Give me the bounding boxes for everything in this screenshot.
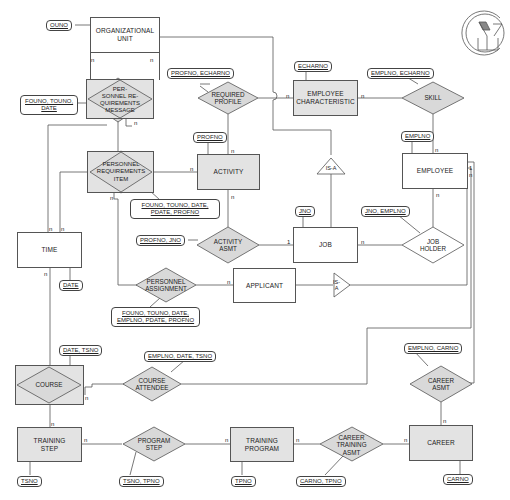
cardinality-label: n (110, 195, 113, 201)
attribute-tsno-tpno[interactable]: TSNO, TPNO (119, 476, 164, 487)
cardinality-label: n (49, 226, 52, 232)
course-attendee-relationship[interactable]: COURSE ATTENDEE (123, 372, 181, 396)
attribute-founo-touno-date[interactable]: FOUNO, TOUNO, DATE (20, 95, 78, 115)
er-diagram: ORGANIZATIONAL UNIT EMPLOYEE CHARACTERIS… (0, 0, 510, 500)
cardinality-label: n (435, 147, 438, 153)
attribute-profno-jno[interactable]: PROFNO, JNO (136, 235, 185, 246)
attribute-tpno[interactable]: TPNO (231, 476, 256, 487)
cardinality-label: n (225, 437, 228, 443)
personnel-requirements-item-relationship[interactable]: PERSONNEL REQUIREMENTS ITEM (88, 158, 154, 186)
attribute-emplno[interactable]: EMPLNO (401, 131, 434, 142)
career-asmt-relationship[interactable]: CAREER ASMT (410, 372, 472, 396)
attribute-jno[interactable]: JNO (295, 206, 315, 217)
cardinality-label: n (227, 279, 230, 285)
attribute-date-tsno[interactable]: DATE, TSNO (59, 345, 102, 356)
isa-applicant-relationship: IS- A (333, 276, 345, 294)
attribute-jno-emplno[interactable]: JNO, EMPLNO (361, 206, 410, 217)
cardinality-label: n (44, 271, 47, 277)
attribute-emplno-date-tsno[interactable]: EMPLNO, DATE, TSNO (144, 351, 216, 362)
cardinality-label: n (51, 421, 54, 427)
cardinality-label: n (91, 57, 94, 63)
cardinality-label: n (436, 192, 439, 198)
personnel-assignment-relationship[interactable]: PERSONNEL ASSIGNMENT (136, 273, 196, 297)
job-holder-relationship[interactable]: JOB HOLDER (402, 233, 464, 257)
cardinality-label: n (443, 418, 446, 424)
activity-asmt-relationship[interactable]: ACTIVITY ASMT (197, 233, 259, 257)
cardinality-label: n (231, 148, 234, 154)
cardinality-label: n (469, 172, 472, 178)
attribute-founo-touno-date-emplno-pdate-profno[interactable]: FOUNO, TOUNO, DATE, EMPLNO, PDATE, PROFN… (111, 307, 200, 327)
attribute-profno-echarno[interactable]: PROFNO, ECHARNO (167, 68, 234, 79)
attribute-profno[interactable]: PROFNO (193, 132, 227, 143)
attribute-carno-tpno[interactable]: CARNO, TPNO (296, 476, 346, 487)
cardinality-label: n (85, 395, 88, 401)
attribute-ouno[interactable]: OUNO (46, 20, 72, 31)
isa-job-relationship: IS-A (318, 164, 344, 174)
program-step-relationship[interactable]: PROGRAM STEP (123, 432, 185, 456)
attribute-founo-touno-date-pdate-profno[interactable]: FOUNO, TOUNO, DATE, PDATE, PROFNO (130, 199, 220, 219)
cardinality-label: n (286, 93, 289, 99)
cardinality-label: n (190, 166, 193, 172)
attribute-echarno[interactable]: ECHARNO (294, 61, 332, 72)
skill-relationship[interactable]: SKILL (402, 86, 464, 110)
cardinality-label: n (404, 437, 407, 443)
cardinality-label: n (296, 437, 299, 443)
cardinality-label: n (231, 194, 234, 200)
attribute-emplno-carno[interactable]: EMPLNO, CARNO (404, 343, 462, 354)
career-training-asmt-relationship[interactable]: CAREER TRAINING ASMT (320, 430, 383, 460)
cardinality-label: n (134, 120, 137, 126)
attribute-tsno[interactable]: TSNO (17, 476, 42, 487)
cardinality-label: n (150, 57, 153, 63)
attribute-date[interactable]: DATE (59, 280, 83, 291)
cardinality-label: n (84, 437, 87, 443)
course-entity[interactable]: COURSE (17, 373, 81, 397)
personnel-requirements-message-relationship[interactable]: PER- SONNEL RE- QUIREMENTS MESSAGE (88, 82, 152, 118)
cardinality-label: n (361, 239, 364, 245)
cardinality-label: n (61, 226, 64, 232)
cardinality-label: n (361, 93, 364, 99)
attribute-emplno-echarno[interactable]: EMPLNO, ECHARNO (367, 68, 434, 79)
cardinality-label: 1 (469, 165, 472, 171)
cardinality-label: 1 (287, 239, 290, 245)
required-profile-relationship[interactable]: REQUIRED PROFILE (198, 86, 258, 110)
attribute-carno[interactable]: CARNO (443, 474, 473, 485)
